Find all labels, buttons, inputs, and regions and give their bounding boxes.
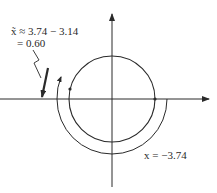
annotation-line-1: x̃ ≈ 3.74 − 3.14 (11, 26, 78, 37)
start-point (153, 97, 156, 100)
circle-point (68, 87, 71, 90)
leader-line (33, 50, 41, 78)
arc-label: x = −3.74 (144, 150, 187, 161)
annotation-line-2: = 0.60 (17, 38, 45, 49)
reference-arrow (42, 68, 48, 97)
